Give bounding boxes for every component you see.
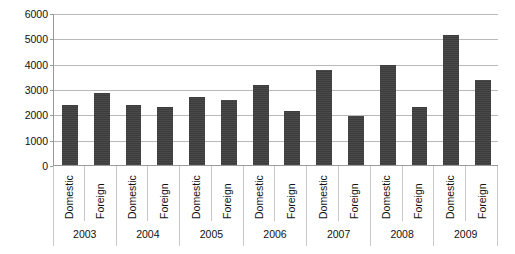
x-axis-year-label: 2003 [53, 221, 117, 246]
y-axis-tick-label: 4000 [2, 60, 48, 70]
y-axis-tick-label: 0 [2, 161, 48, 171]
x-axis-series-label: Domestic [317, 175, 328, 219]
bar [157, 107, 173, 165]
plot-area [53, 14, 498, 166]
x-axis-series-label-cell: Foreign [276, 166, 308, 221]
y-axis-tick-label: 1000 [2, 136, 48, 146]
y-axis-tick-label: 2000 [2, 110, 48, 120]
x-axis-series-label-cell: Domestic [117, 166, 149, 221]
bar [253, 85, 269, 165]
x-axis-series-label: Foreign [413, 183, 424, 219]
bar-chart: 6000500040003000200010000 DomesticForeig… [0, 0, 515, 254]
bar [62, 105, 78, 165]
y-axis-tick-label: 5000 [2, 34, 48, 44]
x-axis-series-label: Foreign [349, 183, 360, 219]
bar [94, 93, 110, 165]
x-axis-series-label-cell: Foreign [403, 166, 435, 221]
y-axis-tick-label: 3000 [2, 85, 48, 95]
bar [284, 111, 300, 165]
bars-layer [54, 14, 498, 165]
x-axis-year-label: 2009 [434, 221, 498, 246]
x-axis-year-label: 2008 [371, 221, 435, 246]
bar [316, 70, 332, 165]
bar [348, 116, 364, 165]
x-axis-series-label-cell: Foreign [339, 166, 371, 221]
y-axis-tick-label: 6000 [2, 9, 48, 19]
x-axis-series-label: Domestic [254, 175, 265, 219]
x-axis-year-label: 2004 [117, 221, 181, 246]
x-axis-series-label: Domestic [444, 175, 455, 219]
x-axis-series-labels: DomesticForeignDomesticForeignDomesticFo… [53, 166, 498, 221]
bar [443, 35, 459, 165]
x-axis-series-label: Domestic [63, 175, 74, 219]
x-axis-series-label: Foreign [476, 183, 487, 219]
x-axis-series-label: Foreign [95, 183, 106, 219]
bar [189, 97, 205, 165]
x-axis-year-label: 2006 [244, 221, 308, 246]
bar [221, 100, 237, 165]
bar [475, 80, 491, 165]
x-axis-series-label-cell: Foreign [148, 166, 180, 221]
x-axis-series-label: Foreign [222, 183, 233, 219]
x-axis-year-label: 2005 [180, 221, 244, 246]
x-axis-series-label: Domestic [190, 175, 201, 219]
x-axis-series-label-cell: Domestic [371, 166, 403, 221]
bar [412, 107, 428, 165]
bar [126, 105, 142, 165]
x-axis-series-label-cell: Domestic [53, 166, 85, 221]
bar [380, 65, 396, 165]
y-axis: 6000500040003000200010000 [0, 0, 48, 254]
x-axis-year-label: 2007 [307, 221, 371, 246]
x-axis-series-label: Domestic [381, 175, 392, 219]
x-axis-series-label-cell: Domestic [307, 166, 339, 221]
x-axis-series-label-cell: Domestic [180, 166, 212, 221]
x-axis-series-label-cell: Foreign [466, 166, 498, 221]
x-axis-series-label: Foreign [158, 183, 169, 219]
x-axis-series-label-cell: Domestic [434, 166, 466, 221]
x-axis-series-label-cell: Domestic [244, 166, 276, 221]
x-axis-series-label: Foreign [285, 183, 296, 219]
x-axis-series-label: Domestic [126, 175, 137, 219]
x-axis-series-label-cell: Foreign [85, 166, 117, 221]
x-axis-series-label-cell: Foreign [212, 166, 244, 221]
x-axis-year-labels: 2003200420052006200720082009 [53, 221, 498, 246]
